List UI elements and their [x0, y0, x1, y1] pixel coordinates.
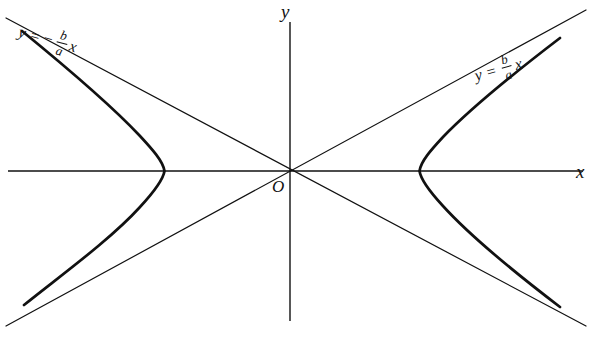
- hyperbola-left-branch: [22, 31, 165, 305]
- y-axis-label: y: [281, 2, 289, 21]
- fraction-denominator: a: [53, 41, 67, 59]
- origin-label: O: [272, 178, 284, 195]
- equation-equals-sign: =: [481, 61, 502, 81]
- x-axis-label: x: [576, 162, 584, 181]
- hyperbola-figure: y x O y = − b a x y = b a x: [0, 0, 592, 337]
